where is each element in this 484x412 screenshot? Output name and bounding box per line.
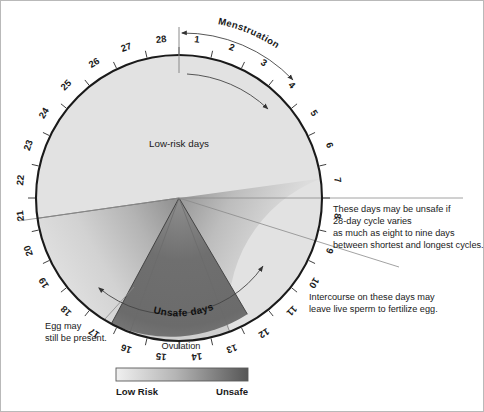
day-tick — [211, 51, 213, 58]
day-number-10: 10 — [307, 276, 322, 291]
legend-low-label: Low Risk — [116, 386, 159, 397]
note-line: still be present. — [45, 333, 107, 343]
note-line: as much as eight to nine days — [333, 228, 455, 238]
day-number-28: 28 — [155, 33, 167, 45]
day-tick — [85, 80, 89, 85]
day-number-20: 20 — [21, 244, 35, 258]
day-number-26: 26 — [86, 55, 101, 70]
day-tick — [292, 104, 297, 108]
day-tick — [145, 51, 147, 58]
day-tick — [309, 260, 315, 263]
day-tick — [61, 104, 66, 108]
day-number-5: 5 — [308, 108, 321, 119]
note-line: 28-day cycle varies — [333, 216, 412, 226]
day-tick — [309, 132, 315, 135]
day-tick — [85, 311, 89, 316]
day-tick — [292, 288, 297, 292]
day-number-7: 7 — [332, 177, 344, 183]
day-number-4: 4 — [286, 79, 298, 91]
day-tick — [319, 230, 326, 232]
low-risk-days-label: Low-risk days — [149, 138, 209, 149]
legend-high-label: Unsafe — [216, 386, 248, 397]
day-number-16: 16 — [119, 342, 133, 356]
day-tick — [113, 62, 116, 68]
day-number-21: 21 — [14, 209, 26, 221]
day-number-25: 25 — [58, 77, 74, 93]
legend: Low Risk Unsafe — [116, 368, 248, 397]
day-number-22: 22 — [14, 174, 26, 186]
day-tick — [241, 62, 244, 68]
note-line: These days may be unsafe if — [333, 204, 451, 214]
day-number-19: 19 — [36, 276, 51, 291]
day-number-11: 11 — [284, 304, 299, 319]
day-number-23: 23 — [21, 138, 35, 152]
day-tick — [319, 164, 326, 166]
day-tick — [32, 164, 39, 166]
note-line: Egg may — [45, 321, 82, 331]
day-tick — [211, 338, 213, 345]
day-tick — [43, 260, 49, 263]
note-right-top: These days may be unsafe if 28-day cycle… — [333, 204, 484, 250]
menstruation-label: Menstruation — [217, 15, 282, 50]
day-number-12: 12 — [257, 326, 272, 341]
day-number-14: 14 — [190, 351, 202, 363]
note-line: leave live sperm to fertilize egg. — [309, 304, 438, 314]
cycle-wheel-figure: 1234567891011121314151617181920212223242… — [1, 1, 484, 412]
day-number-27: 27 — [119, 40, 133, 54]
day-number-6: 6 — [324, 141, 336, 150]
day-tick — [43, 132, 49, 135]
day-tick — [113, 328, 116, 334]
day-tick — [145, 338, 147, 345]
ovulation-label: Ovulation — [162, 341, 201, 351]
diagram-page: 1234567891011121314151617181920212223242… — [0, 0, 484, 412]
day-tick — [269, 80, 273, 85]
note-right-bottom: Intercourse on these days may leave live… — [309, 292, 438, 314]
legend-gradient-bar — [116, 368, 248, 381]
day-tick — [269, 311, 273, 316]
day-number-18: 18 — [58, 303, 73, 318]
day-number-13: 13 — [225, 342, 239, 356]
note-line: between shortest and longest cycles. — [333, 240, 484, 250]
day-number-1: 1 — [194, 33, 201, 45]
day-tick — [241, 328, 244, 334]
day-number-15: 15 — [155, 351, 167, 363]
day-number-24: 24 — [36, 105, 51, 120]
note-line: Intercourse on these days may — [309, 292, 435, 302]
day-tick — [32, 230, 39, 232]
day-number-2: 2 — [228, 41, 237, 53]
day-tick — [61, 288, 66, 292]
